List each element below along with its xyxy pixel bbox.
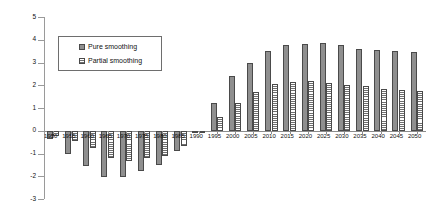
x-axis-tick-label: 2045 <box>390 133 403 139</box>
legend-entry-pure-smoothing: Pure smoothing <box>79 43 137 50</box>
bar-2040-pure <box>374 50 380 131</box>
y-axis-tick-labels: 543210-1-2-3 <box>0 0 36 224</box>
chart-legend: Pure smoothing Partial smoothing <box>58 36 162 71</box>
bar-2000-partial <box>235 103 241 130</box>
bar-2025-pure <box>320 43 326 131</box>
y-axis-tick <box>38 199 44 200</box>
y-axis-tick-label: -2 <box>2 173 36 180</box>
x-axis-tick-label: 2015 <box>281 133 294 139</box>
x-axis-tick-label: 1980 <box>153 133 166 139</box>
y-axis-tick-label: 3 <box>2 59 36 66</box>
y-axis-tick-label: -3 <box>2 196 36 203</box>
bar-2005-pure <box>247 63 253 131</box>
legend-label: Partial smoothing <box>88 57 142 64</box>
bar-2020-pure <box>302 44 308 130</box>
bar-2050-pure <box>411 52 417 130</box>
y-axis-tick-label: 1 <box>2 105 36 112</box>
bar-2025-partial <box>326 83 332 131</box>
x-axis-tick-label: 2020 <box>299 133 312 139</box>
bar-2010-partial <box>272 84 278 131</box>
x-axis-tick-label: 1950 <box>44 133 57 139</box>
bar-1995-pure <box>211 103 217 130</box>
x-axis-tick-label: 2050 <box>408 133 421 139</box>
bar-2010-pure <box>265 51 271 131</box>
x-axis-tick-label: 1955 <box>62 133 75 139</box>
x-axis-tick-label: 2040 <box>372 133 385 139</box>
x-axis-tick-label: 2035 <box>353 133 366 139</box>
bar-2015-partial <box>290 82 296 131</box>
legend-swatch-icon <box>79 58 85 64</box>
y-axis-tick-label: -1 <box>2 150 36 157</box>
y-axis-tick-label: 0 <box>2 127 36 134</box>
bar-2020-partial <box>308 81 314 131</box>
x-axis-tick-label: 2030 <box>335 133 348 139</box>
bar-chart: 543210-1-2-3 195019551960196519701975198… <box>0 0 432 224</box>
bar-2045-partial <box>399 90 405 131</box>
x-axis-tick-label: 1995 <box>208 133 221 139</box>
bar-2000-pure <box>229 76 235 131</box>
x-axis-tick-label: 1990 <box>190 133 203 139</box>
bar-2005-partial <box>253 92 259 131</box>
y-axis-tick-label: 4 <box>2 36 36 43</box>
x-axis-tick-label: 2010 <box>262 133 275 139</box>
x-axis-tick-label: 2025 <box>317 133 330 139</box>
x-axis-tick-label: 1985 <box>171 133 184 139</box>
bar-1995-partial <box>217 117 223 131</box>
bar-2035-partial <box>363 86 369 130</box>
legend-entry-partial-smoothing: Partial smoothing <box>79 57 142 64</box>
bar-2030-partial <box>344 85 350 131</box>
bar-2050-partial <box>417 91 423 131</box>
y-axis-tick-label: 5 <box>2 14 36 21</box>
x-axis-tick-label: 1975 <box>135 133 148 139</box>
bar-2040-partial <box>381 89 387 131</box>
x-axis-tick-label: 2000 <box>226 133 239 139</box>
x-axis-tick-label: 1965 <box>99 133 112 139</box>
bar-2015-pure <box>283 45 289 130</box>
y-axis-tick-label: 2 <box>2 82 36 89</box>
legend-label: Pure smoothing <box>88 43 137 50</box>
x-axis-tick-label: 2005 <box>244 133 257 139</box>
bar-2035-pure <box>356 49 362 131</box>
legend-swatch-icon <box>79 44 85 50</box>
bar-2045-pure <box>392 51 398 131</box>
x-axis-tick-label: 1960 <box>80 133 93 139</box>
x-axis-tick-label: 1970 <box>117 133 130 139</box>
bar-2030-pure <box>338 45 344 130</box>
